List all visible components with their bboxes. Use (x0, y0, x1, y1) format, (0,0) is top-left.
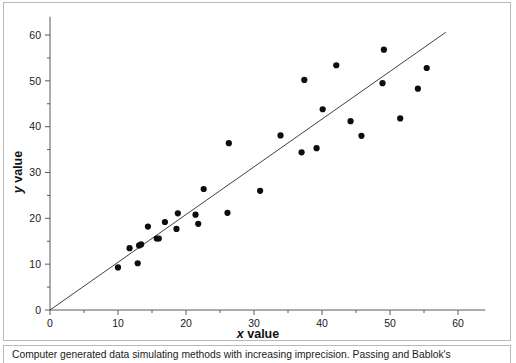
data-point (115, 264, 121, 270)
data-point (126, 245, 132, 251)
x-tick-label: 20 (180, 317, 192, 329)
data-point (320, 106, 326, 112)
x-tick-label: 0 (47, 317, 53, 329)
data-point (313, 145, 319, 151)
data-point (301, 77, 307, 83)
data-point (226, 140, 232, 146)
y-tick-label: 60 (29, 29, 41, 41)
data-point (192, 212, 198, 218)
data-point (195, 221, 201, 227)
data-point (381, 47, 387, 53)
regression-line (50, 32, 446, 310)
x-tick-label: 40 (316, 317, 328, 329)
figure-caption-strip: Computer generated data simulating metho… (3, 345, 511, 363)
figure-caption: Computer generated data simulating metho… (12, 348, 506, 361)
fit-line-group (50, 32, 446, 310)
y-tick-label: 30 (29, 166, 41, 178)
x-tick-label: 10 (112, 317, 124, 329)
data-point (162, 219, 168, 225)
y-tick-label: 20 (29, 212, 41, 224)
data-point (277, 132, 283, 138)
data-point (175, 210, 181, 216)
data-point (257, 188, 263, 194)
x-axis-title: x value (236, 327, 279, 341)
data-point (173, 226, 179, 232)
data-point (145, 223, 151, 229)
data-point (397, 115, 403, 121)
data-point (379, 80, 385, 86)
y-tick-label: 10 (29, 258, 41, 270)
data-point (333, 62, 339, 68)
scatter-plot: 01020304050600102030405060 x value y val… (0, 0, 516, 345)
y-tick-label: 0 (35, 304, 41, 316)
data-point (347, 118, 353, 124)
data-point (415, 86, 421, 92)
data-point (358, 133, 364, 139)
data-point (224, 210, 230, 216)
x-tick-label: 50 (384, 317, 396, 329)
axes-group (45, 17, 485, 315)
tick-labels-group: 01020304050600102030405060 (29, 29, 464, 329)
data-point (424, 65, 430, 71)
data-point (135, 260, 141, 266)
data-point (201, 186, 207, 192)
y-axis-title: y value (11, 151, 25, 194)
data-point (138, 241, 144, 247)
y-tick-label: 40 (29, 120, 41, 132)
x-tick-label: 60 (452, 317, 464, 329)
figure-root: 01020304050600102030405060 x value y val… (0, 0, 516, 363)
data-point (156, 235, 162, 241)
data-points-group (115, 47, 430, 271)
data-point (299, 149, 305, 155)
y-tick-label: 50 (29, 75, 41, 87)
